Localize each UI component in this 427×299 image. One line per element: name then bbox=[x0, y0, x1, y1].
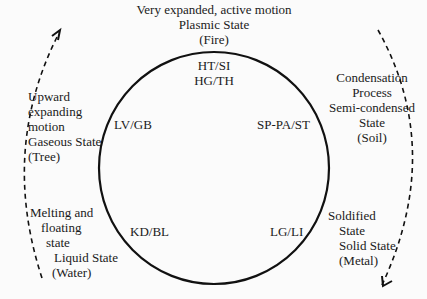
right-lower-inner: LG/LI bbox=[270, 224, 303, 239]
left-lower-inner: KD/BL bbox=[130, 224, 169, 239]
left-upper-inner: LV/GB bbox=[114, 117, 152, 132]
right-upper-inner: SP-PA/ST bbox=[257, 117, 310, 132]
five-element-cycle-diagram: Very expanded, active motion Plasmic Sta… bbox=[0, 0, 427, 299]
right-arrowhead-icon bbox=[382, 276, 392, 286]
top-label-line: Very expanded, active motion bbox=[114, 2, 314, 17]
left-upper-label: Upward expanding motion Gaseous State (T… bbox=[28, 89, 101, 164]
left-lower-label: Melting and floating state Liquid State … bbox=[18, 205, 128, 280]
top-label-line: (Fire) bbox=[114, 32, 314, 47]
top-label-line: Plasmic State bbox=[114, 17, 314, 32]
top-inner-label: HT/SI HG/TH bbox=[164, 58, 264, 88]
inner-code-ht-si: HT/SI bbox=[164, 58, 264, 73]
right-lower-label: Soldified State Solid State (Metal) bbox=[328, 208, 396, 268]
right-upper-label: Condensation Process Semi-condensed Stat… bbox=[322, 70, 422, 145]
top-label: Very expanded, active motion Plasmic Sta… bbox=[114, 2, 314, 47]
inner-code-hg-th: HG/TH bbox=[164, 73, 264, 88]
